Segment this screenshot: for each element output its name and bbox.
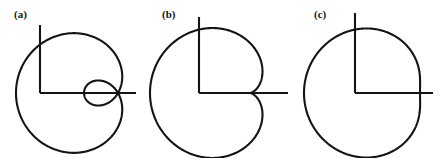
limacon-figure: (a) (b) (c)	[0, 0, 448, 158]
panel-c-plot	[0, 0, 448, 158]
